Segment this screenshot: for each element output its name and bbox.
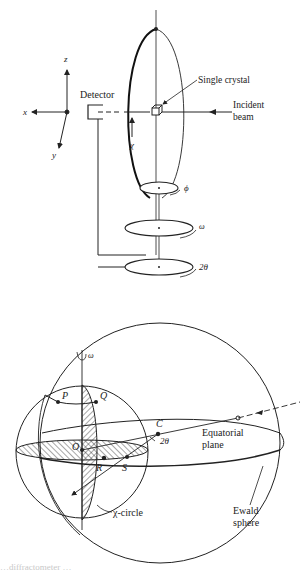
figure-caption: …diffractometer … [0, 562, 308, 576]
beam-arrow-icon [209, 109, 216, 115]
chi-circle-label: χ-circle [112, 507, 144, 518]
omega-label-bottom: ω [88, 351, 94, 360]
crystal-pointer [163, 80, 197, 104]
incident-label-1: Incident [233, 100, 264, 110]
P-label: P [61, 390, 68, 401]
x-axis-label: x [22, 107, 27, 117]
detector-label: Detector [80, 89, 115, 100]
crystal-icon [152, 105, 162, 115]
omega-label: ω [199, 222, 205, 231]
incident-label-2: beam [233, 112, 254, 122]
figure-canvas: z x y Detector χ Single crystal Incident… [0, 0, 308, 576]
point-Q [94, 400, 98, 404]
equatorial-label-1: Equatorial [202, 427, 244, 438]
O-label: O [72, 441, 79, 452]
phi-label: ϕ [184, 183, 189, 193]
R-label: R [95, 462, 102, 473]
Q-label: Q [100, 390, 108, 401]
S-label: S [122, 462, 127, 473]
ewald-label-2: sphere [233, 517, 260, 528]
two-theta-label: 2θ [199, 262, 209, 272]
diffractometer-diagram: z x y Detector χ Single crystal Incident… [22, 10, 264, 277]
chi-label: χ [129, 140, 135, 150]
point-R [102, 456, 106, 460]
two-theta-label-bottom: 2θ [160, 436, 170, 446]
incident-beam-dashed [238, 402, 300, 418]
axes-icon [32, 70, 69, 148]
single-crystal-label: Single crystal [198, 75, 250, 85]
equatorial-label-2: plane [202, 439, 224, 450]
ewald-label-1: Ewald [233, 505, 259, 516]
omega-rotation-icon [77, 352, 86, 360]
y-axis-label: y [51, 150, 56, 160]
ewald-sphere-diagram: ω P Q O R S C 2θ Equatorial plane χ-circ… [16, 323, 300, 563]
point-P [56, 400, 60, 404]
z-axis-label: z [63, 54, 68, 64]
C-label: C [156, 418, 163, 429]
